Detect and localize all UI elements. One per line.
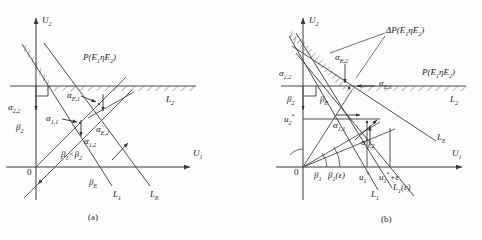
panel-a-alpha12-label: α1,2: [84, 137, 96, 148]
panel-b-leader-deltaP-1: [330, 33, 385, 53]
panel-b-beta1-label: β1: [314, 171, 321, 182]
panel-b-region-label: P(E1ηE2): [422, 68, 455, 79]
panel-b-intersection-L2: [348, 87, 350, 89]
panel-b-LE-label: LE: [437, 133, 446, 144]
panel-b-graphics: [276, 18, 466, 200]
figure-container: U2 U1 0 P(E1ηE2) α2,2 β2 αE,1 α1,1 αE,2 …: [0, 0, 482, 240]
panel-b-u1star-label: u1*: [359, 171, 370, 184]
panel-a-origin-label: 0: [27, 168, 32, 177]
panel-b-L2-label: L2: [450, 95, 458, 106]
panel-b-ray-beta1-eps: [303, 129, 395, 167]
panel-b-alphaE1-label: αE,1: [379, 79, 392, 90]
panel-a-L2-label: L2: [166, 95, 174, 106]
panel-b-arc-beta1-eps: [334, 147, 340, 167]
panel-a-intersection-upper: [98, 103, 100, 105]
panel-a-betaE-label: βE: [89, 178, 97, 189]
panel-b-caption: (b): [381, 214, 392, 224]
panel-a-aux-segment: [88, 92, 134, 118]
panel-a-betaE-arrow: [38, 170, 52, 184]
panel-b-right-angle-mark: [303, 86, 316, 96]
panel-b-point-u-star: [366, 121, 368, 123]
panel-b-alpha12-prime-label: α′1,2: [361, 136, 375, 149]
panel-b-axis-u1-label: U1: [452, 149, 462, 160]
panel-b-beta2-label: β2: [287, 95, 294, 106]
panel-b-alpha22-label: α2,2: [279, 69, 291, 80]
panel-a-region-label: P(E1ηE2): [83, 53, 116, 64]
panel-b-L1-eps-label: L1(ε): [393, 183, 411, 194]
panel-a-beta2-label: β2: [16, 123, 23, 134]
panel-a-beta-compare-label: β1<β2: [61, 150, 82, 161]
panel-a-alphaE1-label: αE,1: [67, 91, 80, 102]
panel-b-delta-region-label: ΔP(E1ηE2): [386, 26, 424, 37]
panel-a-alpha22-label: α2,2: [8, 103, 20, 114]
panel-a-axis-u1-label: U1: [193, 149, 203, 160]
panel-a-LE-label: LE: [150, 190, 159, 201]
panel-a-alpha11-label: α1,1: [46, 114, 58, 125]
panel-b-line-LE: [292, 46, 436, 141]
panel-b-alphaE2-label: αE,2: [335, 53, 348, 64]
panel-b-origin-label: 0: [294, 168, 299, 177]
panel-a-graphics: [6, 18, 196, 200]
panel-a-alphaE2-label: αE,2: [96, 125, 109, 136]
panel-a-caption: (a): [88, 212, 98, 222]
panel-a-axis-u2-label: U2: [42, 16, 52, 27]
panel-b-axis-u2-label: U2: [309, 16, 319, 27]
panel-b-betaE-label: βE: [320, 95, 328, 106]
panel-b-alpha11-label: α1,1: [333, 121, 345, 132]
panel-b-beta1-eps-label: β1(ε): [328, 171, 345, 182]
panel-b-hatch-L2: [352, 86, 466, 91]
panel-b-u2star-label: u2*: [284, 113, 295, 126]
panel-a-L1-label: L1: [113, 190, 121, 201]
panel-a-line-LE: [44, 43, 150, 186]
panel-b-L1-label: L1: [371, 190, 379, 201]
panel-b-arc-betaE: [290, 149, 303, 155]
panel-a-arrow-alphaE1: [81, 96, 96, 102]
